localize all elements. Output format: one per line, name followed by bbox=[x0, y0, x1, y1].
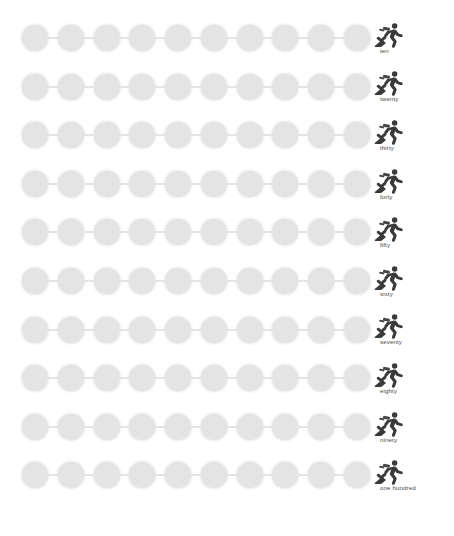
row-label: seventy bbox=[380, 339, 402, 345]
count-dot bbox=[22, 414, 48, 440]
dot-group bbox=[22, 462, 370, 488]
number-line-row: seventy bbox=[0, 307, 454, 353]
count-dot bbox=[165, 268, 191, 294]
row-label: thirty bbox=[380, 145, 394, 151]
count-dot bbox=[58, 25, 84, 51]
runner-icon bbox=[374, 313, 404, 339]
count-dot bbox=[201, 171, 227, 197]
count-dot bbox=[308, 268, 334, 294]
count-dot bbox=[94, 268, 120, 294]
number-line-track bbox=[22, 64, 370, 110]
number-line-row: eighty bbox=[0, 355, 454, 401]
count-dot bbox=[344, 414, 370, 440]
count-dot bbox=[272, 414, 298, 440]
row-endcap: forty bbox=[372, 161, 440, 207]
row-endcap: one hundred bbox=[372, 452, 440, 498]
count-dot bbox=[272, 268, 298, 294]
count-dot bbox=[237, 122, 263, 148]
count-dot bbox=[272, 74, 298, 100]
count-dot bbox=[22, 462, 48, 488]
row-endcap: fifty bbox=[372, 209, 440, 255]
row-endcap: sixty bbox=[372, 258, 440, 304]
count-dot bbox=[129, 25, 155, 51]
count-dot bbox=[237, 414, 263, 440]
runner-icon bbox=[374, 362, 404, 388]
count-dot bbox=[94, 365, 120, 391]
count-dot bbox=[58, 74, 84, 100]
count-dot bbox=[165, 462, 191, 488]
count-dot bbox=[129, 365, 155, 391]
count-dot bbox=[237, 219, 263, 245]
count-dot bbox=[165, 74, 191, 100]
count-dot bbox=[201, 268, 227, 294]
count-dot bbox=[129, 462, 155, 488]
count-dot bbox=[58, 122, 84, 148]
runner-icon bbox=[374, 216, 404, 242]
runner-icon bbox=[374, 459, 404, 485]
number-line-track bbox=[22, 209, 370, 255]
dot-group bbox=[22, 171, 370, 197]
count-dot bbox=[22, 171, 48, 197]
count-dot bbox=[129, 74, 155, 100]
count-dot bbox=[58, 462, 84, 488]
row-label: eighty bbox=[380, 388, 397, 394]
count-dot bbox=[308, 317, 334, 343]
count-dot bbox=[344, 171, 370, 197]
count-dot bbox=[308, 365, 334, 391]
number-line-row: one hundred bbox=[0, 452, 454, 498]
row-label: fifty bbox=[380, 242, 390, 248]
count-dot bbox=[237, 462, 263, 488]
row-endcap: twenty bbox=[372, 64, 440, 110]
count-dot bbox=[237, 25, 263, 51]
count-dot bbox=[237, 74, 263, 100]
dot-group bbox=[22, 122, 370, 148]
number-line-track bbox=[22, 404, 370, 450]
count-dot bbox=[344, 25, 370, 51]
worksheet-canvas: tentwentythirtyfortyfiftysixtyseventyeig… bbox=[0, 0, 454, 536]
count-dot bbox=[165, 317, 191, 343]
dot-group bbox=[22, 25, 370, 51]
number-line-track bbox=[22, 112, 370, 158]
count-dot bbox=[22, 122, 48, 148]
row-label: ninety bbox=[380, 437, 397, 443]
count-dot bbox=[272, 219, 298, 245]
count-dot bbox=[94, 74, 120, 100]
count-dot bbox=[272, 317, 298, 343]
count-dot bbox=[344, 317, 370, 343]
number-line-track bbox=[22, 258, 370, 304]
number-line-track bbox=[22, 355, 370, 401]
count-dot bbox=[272, 462, 298, 488]
count-dot bbox=[201, 219, 227, 245]
row-endcap: thirty bbox=[372, 112, 440, 158]
count-dot bbox=[344, 122, 370, 148]
runner-icon bbox=[374, 265, 404, 291]
count-dot bbox=[22, 365, 48, 391]
row-endcap: ninety bbox=[372, 404, 440, 450]
count-dot bbox=[165, 414, 191, 440]
runner-icon bbox=[374, 119, 404, 145]
count-dot bbox=[58, 171, 84, 197]
count-dot bbox=[201, 122, 227, 148]
count-dot bbox=[308, 171, 334, 197]
count-dot bbox=[344, 268, 370, 294]
count-dot bbox=[308, 219, 334, 245]
count-dot bbox=[344, 462, 370, 488]
number-line-track bbox=[22, 307, 370, 353]
count-dot bbox=[237, 171, 263, 197]
dot-group bbox=[22, 268, 370, 294]
count-dot bbox=[94, 219, 120, 245]
count-dot bbox=[308, 25, 334, 51]
count-dot bbox=[308, 414, 334, 440]
count-dot bbox=[58, 317, 84, 343]
count-dot bbox=[344, 74, 370, 100]
count-dot bbox=[308, 462, 334, 488]
count-dot bbox=[344, 365, 370, 391]
count-dot bbox=[94, 122, 120, 148]
count-dot bbox=[129, 171, 155, 197]
number-line-row: twenty bbox=[0, 64, 454, 110]
count-dot bbox=[237, 365, 263, 391]
row-label: twenty bbox=[380, 96, 398, 102]
count-dot bbox=[201, 25, 227, 51]
row-endcap: ten bbox=[372, 15, 440, 61]
count-dot bbox=[237, 268, 263, 294]
